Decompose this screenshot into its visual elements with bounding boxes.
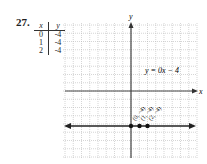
line-arrow-right-icon — [189, 123, 196, 129]
x-axis-label: x — [198, 87, 203, 96]
coordinate-graph: x y y = 0x − 4 (0, −4) (1, −4) (2, −4) — [0, 0, 207, 164]
equation-label: y = 0x − 4 — [144, 66, 179, 75]
point — [137, 124, 141, 128]
y-axis-label: y — [128, 12, 133, 21]
point — [129, 124, 133, 128]
point — [145, 124, 149, 128]
